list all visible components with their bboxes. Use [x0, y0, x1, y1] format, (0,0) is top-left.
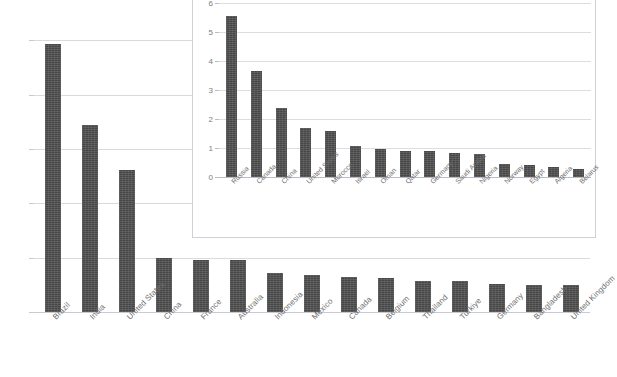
inset-y-tick-label: 4: [197, 57, 213, 66]
inset-bar-series: [219, 3, 591, 177]
main-bar: [193, 260, 209, 312]
inset-x-axis-labels: RussiaCanadaChinaUnited StatesMoroccoIsr…: [219, 179, 591, 235]
inset-bar: [424, 151, 435, 177]
inset-bar: [226, 16, 237, 177]
inset-y-tick-label: 5: [197, 28, 213, 37]
main-bar: [82, 125, 98, 312]
inset-y-tick: [215, 177, 219, 178]
inset-bar-chart: 0123456 RussiaCanadaChinaUnited StatesMo…: [192, 0, 596, 238]
main-bar: [119, 170, 135, 312]
inset-bar: [375, 149, 386, 177]
main-x-axis-labels: BrazilIndiaUnited StatesChinaFranceAustr…: [34, 313, 590, 377]
inset-y-tick-label: 6: [197, 0, 213, 8]
inset-bar: [350, 146, 361, 177]
inset-bar: [251, 71, 262, 177]
inset-y-tick-label: 0: [197, 173, 213, 182]
inset-y-tick-label: 3: [197, 86, 213, 95]
inset-y-tick-label: 1: [197, 144, 213, 153]
inset-plot-area: 0123456: [219, 3, 591, 177]
inset-bar: [300, 128, 311, 177]
main-bar: [45, 44, 61, 312]
inset-y-tick-label: 2: [197, 115, 213, 124]
main-bar: [230, 260, 246, 312]
